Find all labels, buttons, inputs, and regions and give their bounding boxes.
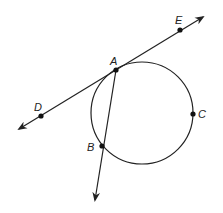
label-e: E xyxy=(175,14,183,26)
label-c: C xyxy=(198,108,206,120)
point-e xyxy=(177,27,182,32)
label-a: A xyxy=(109,55,117,67)
tangent-line-de xyxy=(19,17,203,129)
label-d: D xyxy=(34,101,42,113)
point-b xyxy=(99,143,104,148)
point-d xyxy=(38,113,43,118)
geometry-diagram: A B C D E xyxy=(0,0,223,213)
point-a xyxy=(113,67,118,72)
label-b: B xyxy=(87,141,94,153)
secant-line-ab xyxy=(95,70,116,200)
circle xyxy=(91,62,193,164)
point-c xyxy=(190,111,195,116)
